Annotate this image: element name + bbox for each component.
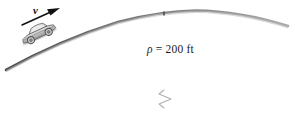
radius-line [159, 12, 171, 132]
velocity-arrow-head [47, 8, 60, 16]
break-zigzag-icon [159, 90, 171, 108]
road-thickness-band [6, 11, 288, 73]
physics-figure: v ρ = 200 ft [0, 0, 295, 140]
radius-equals: = [156, 43, 163, 55]
figure-canvas [0, 0, 295, 140]
radius-units: ft [187, 43, 194, 55]
radius-value: 200 [166, 43, 184, 55]
road-curve [6, 11, 288, 73]
velocity-arrow [22, 8, 60, 25]
velocity-label: v [33, 5, 38, 16]
radius-label: ρ = 200 ft [147, 44, 194, 56]
road-surface-line [6, 11, 288, 71]
car [17, 18, 58, 48]
